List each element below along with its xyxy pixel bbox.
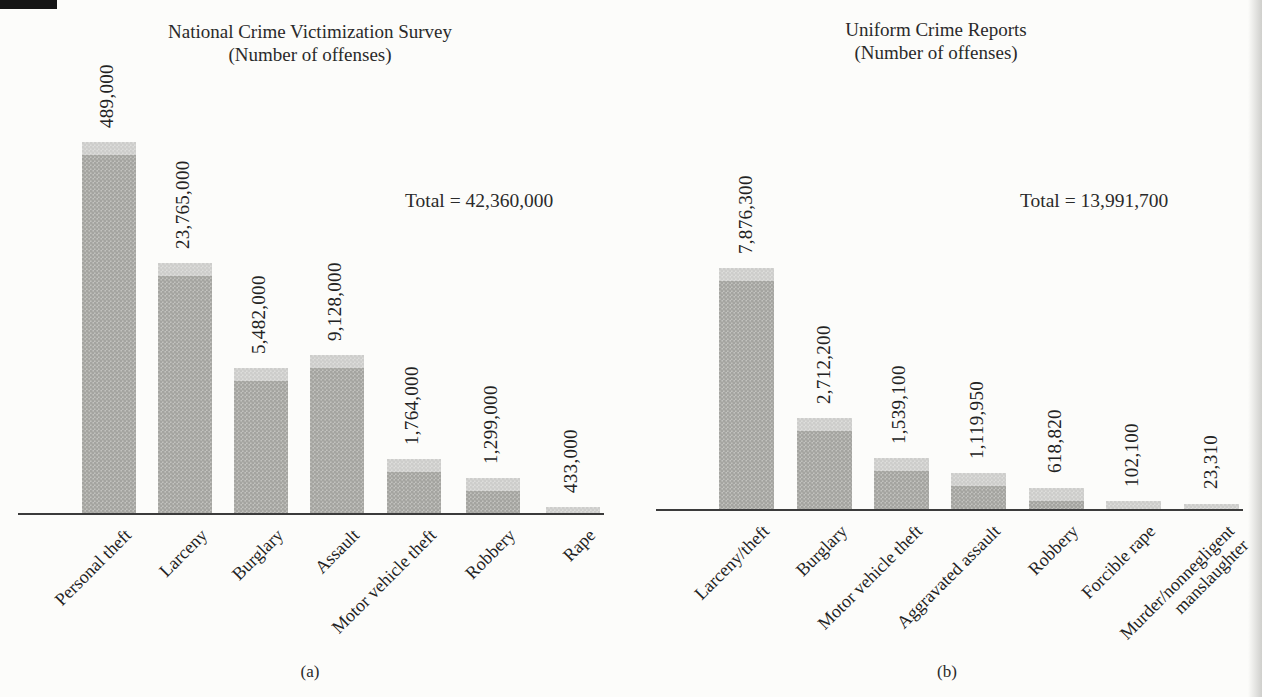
bar-assault: [310, 355, 364, 513]
bar-burglary-a: [234, 368, 288, 513]
chart-a-title-line2: (Number of offenses): [168, 43, 452, 66]
value-label: 433,000: [561, 429, 581, 493]
chart-a-x-axis: [18, 513, 604, 515]
scan-artifact-right-edge: [1248, 0, 1262, 697]
chart-a-title: National Crime Victimization Survey (Num…: [168, 20, 452, 66]
category-label: Burglary: [228, 525, 287, 584]
value-label: 618,820: [1045, 409, 1065, 473]
value-label: 23,765,000: [173, 161, 193, 250]
bar-burglary-b: [797, 418, 852, 509]
category-label: Assault: [311, 525, 363, 577]
value-label: 1,539,100: [889, 365, 909, 444]
category-label: Rape: [559, 525, 599, 565]
value-label: 23,310: [1201, 435, 1221, 489]
value-label: 489,000: [97, 64, 117, 128]
chart-b-title-line2: (Number of offenses): [845, 41, 1027, 64]
bar-personal-theft: [82, 142, 136, 513]
value-label: 9,128,000: [325, 262, 345, 341]
value-label: 7,876,300: [736, 175, 756, 254]
value-label: 1,119,950: [967, 381, 987, 459]
value-label: 1,764,000: [402, 366, 422, 445]
bar-forcible-rape: [1106, 501, 1161, 509]
value-label: 2,712,200: [814, 325, 834, 404]
value-label: 1,299,000: [481, 385, 501, 464]
value-label: 5,482,000: [249, 275, 269, 354]
category-label: Robbery: [461, 525, 519, 583]
category-label: Robbery: [1024, 521, 1082, 579]
category-label: Larceny/theft: [690, 521, 773, 604]
bar-larceny-theft: [719, 268, 774, 509]
bar-motor-vehicle-theft-a: [387, 459, 441, 513]
category-label: Burglary: [792, 521, 851, 580]
chart-b-caption: (b): [937, 662, 957, 682]
category-label: Forcible rape: [1077, 521, 1159, 603]
value-label: 102,100: [1122, 423, 1142, 487]
bar-aggravated-assault: [951, 473, 1006, 509]
chart-a-total-annotation: Total = 42,360,000: [405, 190, 553, 212]
chart-b-title-line1: Uniform Crime Reports: [845, 18, 1027, 41]
bar-robbery-a: [466, 478, 520, 513]
bar-motor-vehicle-theft-b: [874, 458, 929, 509]
chart-b-title: Uniform Crime Reports (Number of offense…: [845, 18, 1027, 64]
chart-a-title-line1: National Crime Victimization Survey: [168, 20, 452, 43]
crime-comparison-figure: National Crime Victimization Survey (Num…: [0, 0, 1262, 697]
chart-a-caption: (a): [301, 662, 320, 682]
scan-artifact-top-left: [0, 0, 57, 9]
bar-robbery-b: [1029, 488, 1084, 509]
category-label: Larceny: [155, 525, 211, 581]
bar-larceny: [158, 263, 212, 513]
chart-b-total-annotation: Total = 13,991,700: [1020, 190, 1168, 212]
chart-b-x-axis: [656, 509, 1243, 511]
category-label: Personal theft: [51, 525, 135, 609]
